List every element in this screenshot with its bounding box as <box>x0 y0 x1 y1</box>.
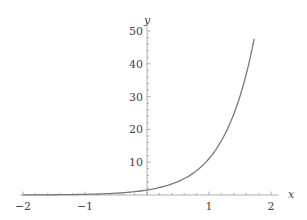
x-axis-label: x <box>288 188 295 201</box>
x-tick-label: −2 <box>15 200 31 213</box>
y-tick-label: 40 <box>129 58 143 71</box>
y-axis-label: y <box>143 14 151 27</box>
x-tick-label: −1 <box>77 200 93 213</box>
axes <box>20 26 278 195</box>
tick-labels: −2−1121020304050 <box>15 25 275 213</box>
y-tick-label: 10 <box>129 156 143 169</box>
x-tick-label: 2 <box>268 200 275 213</box>
y-tick-label: 20 <box>129 123 143 136</box>
y-tick-label: 30 <box>129 91 143 104</box>
exponential-chart: −2−1121020304050 x y <box>0 0 307 220</box>
x-tick-label: 1 <box>206 200 213 213</box>
y-tick-label: 50 <box>129 25 143 38</box>
